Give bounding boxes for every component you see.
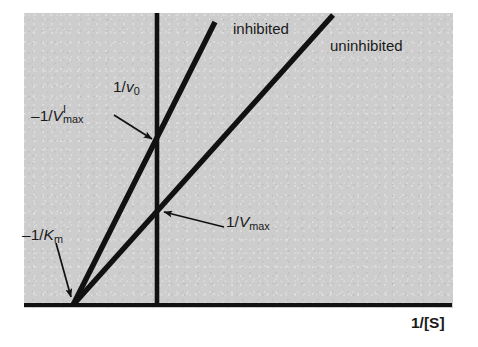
x-axis-label: 1/[S] — [411, 315, 445, 331]
vmax-inhibited-arrow — [114, 115, 152, 139]
annotation-km: –1/Km — [22, 227, 63, 245]
annotation-vmax-inhibited-minus: – — [31, 107, 40, 124]
annotation-vmax-inhibited-subscript: max — [63, 115, 84, 125]
annotation-km-symbol: K — [44, 226, 54, 243]
annotation-vmax: 1/Vmax — [226, 214, 270, 232]
annotation-km-subscript: m — [54, 233, 63, 245]
km-arrow — [56, 243, 71, 297]
series-label-uninhibited: uninhibited — [330, 38, 403, 53]
annotation-vmax-inhibited-prefix: 1/ — [40, 107, 53, 124]
annotation-vmax-inhibited-symbol: V — [53, 107, 63, 124]
inhibited-line — [73, 22, 215, 305]
series-label-inhibited: inhibited — [233, 21, 289, 36]
annotation-vmax-subscript: max — [249, 220, 270, 232]
uninhibited-line — [73, 15, 333, 305]
lineweaver-burk-figure: inhibited uninhibited 1/v0 –1/VImax –1/K… — [0, 0, 478, 347]
plot-overlay — [0, 0, 478, 347]
annotation-vmax-prefix: 1/ — [226, 213, 239, 230]
annotation-vmax-symbol: V — [239, 213, 249, 230]
vmax-arrow — [164, 212, 224, 227]
annotation-km-prefix: 1/ — [31, 226, 44, 243]
annotation-vmax-inhibited-scripts: Imax — [63, 105, 84, 125]
y-axis-label: 1/v0 — [113, 79, 140, 97]
annotation-km-minus: – — [22, 226, 31, 243]
annotation-vmax-inhibited: –1/VImax — [31, 105, 83, 125]
